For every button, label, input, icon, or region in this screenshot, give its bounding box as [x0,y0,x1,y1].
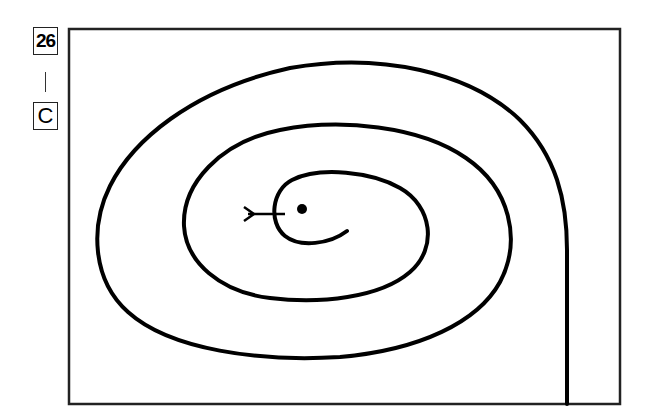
center-dot [297,204,307,214]
spiral-path [97,63,567,404]
start-arrow-icon [244,207,285,221]
diagram-frame [69,29,620,404]
spiral-diagram [0,0,646,413]
